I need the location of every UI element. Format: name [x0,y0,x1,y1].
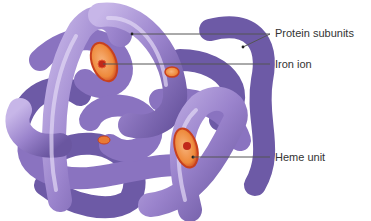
label-iron-ion: Iron ion [275,58,312,70]
heme-unit-small [165,67,179,77]
label-protein-subunits: Protein subunits [275,27,354,39]
label-heme-unit: Heme unit [275,151,325,163]
heme-unit-hidden [98,136,110,144]
hemoglobin-diagram: Protein subunits Iron ion Heme unit [0,0,371,221]
